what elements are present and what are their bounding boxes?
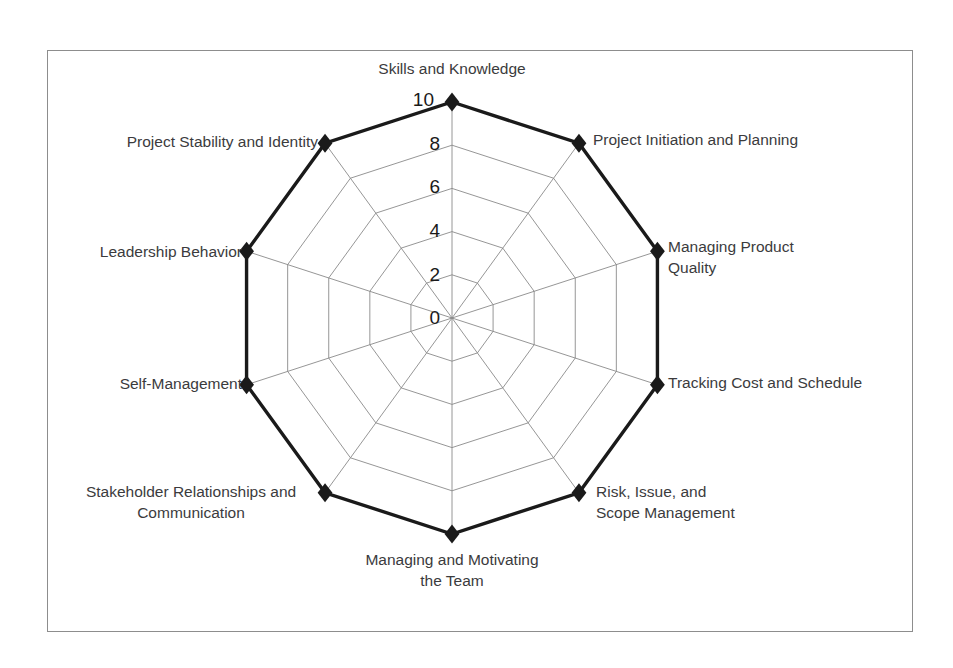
grid-spoke bbox=[452, 318, 657, 385]
radial-tick-label: 6 bbox=[429, 176, 440, 197]
radial-tick-label: 8 bbox=[429, 133, 440, 154]
axis-label-9: Project Stability and Identity bbox=[127, 133, 319, 150]
radial-tick-label: 10 bbox=[413, 89, 434, 110]
axis-label-line: Project Stability and Identity bbox=[127, 133, 319, 150]
axis-label-line: Managing and Motivating bbox=[365, 551, 538, 568]
grid-spoke bbox=[452, 318, 579, 493]
axis-label-line: Communication bbox=[137, 504, 245, 521]
radar-chart: 1086420 Skills and KnowledgeProject Init… bbox=[0, 0, 953, 668]
axis-label-line: Quality bbox=[668, 259, 716, 276]
radial-tick-label: 0 bbox=[429, 307, 440, 328]
data-point-marker bbox=[445, 93, 460, 112]
axis-label-0: Skills and Knowledge bbox=[378, 60, 525, 77]
radial-tick-label: 4 bbox=[429, 220, 440, 241]
axis-label-line: Project Initiation and Planning bbox=[593, 131, 798, 148]
axis-label-2: Managing ProductQuality bbox=[668, 238, 794, 276]
axis-label-line: Leadership Behavior bbox=[100, 243, 242, 260]
axis-label-line: the Team bbox=[420, 572, 483, 589]
axis-label-line: Tracking Cost and Schedule bbox=[668, 374, 862, 391]
axis-label-line: Managing Product bbox=[668, 238, 794, 255]
axis-label-line: Stakeholder Relationships and bbox=[86, 483, 296, 500]
axis-label-line: Risk, Issue, and bbox=[596, 483, 706, 500]
data-point-marker bbox=[445, 525, 460, 544]
axis-label-1: Project Initiation and Planning bbox=[593, 131, 798, 148]
axis-label-8: Leadership Behavior bbox=[100, 243, 242, 260]
axis-label-3: Tracking Cost and Schedule bbox=[668, 374, 862, 391]
axis-label-5: Managing and Motivatingthe Team bbox=[365, 551, 538, 589]
axis-label-7: Self-Management bbox=[120, 375, 243, 392]
axis-label-line: Skills and Knowledge bbox=[378, 60, 525, 77]
axis-label-line: Scope Management bbox=[596, 504, 735, 521]
radial-tick-label: 2 bbox=[429, 264, 440, 285]
axis-label-4: Risk, Issue, andScope Management bbox=[596, 483, 735, 521]
grid-spoke bbox=[452, 251, 657, 318]
radial-axis-labels: 1086420 bbox=[413, 89, 441, 328]
category-axis-labels: Skills and KnowledgeProject Initiation a… bbox=[86, 60, 862, 589]
axis-label-line: Self-Management bbox=[120, 375, 243, 392]
chart-page: 1086420 Skills and KnowledgeProject Init… bbox=[0, 0, 953, 668]
grid-spoke bbox=[247, 318, 452, 385]
grid-spoke bbox=[247, 251, 452, 318]
axis-label-6: Stakeholder Relationships andCommunicati… bbox=[86, 483, 296, 521]
grid-spoke bbox=[452, 143, 579, 318]
grid-spoke bbox=[325, 318, 452, 493]
